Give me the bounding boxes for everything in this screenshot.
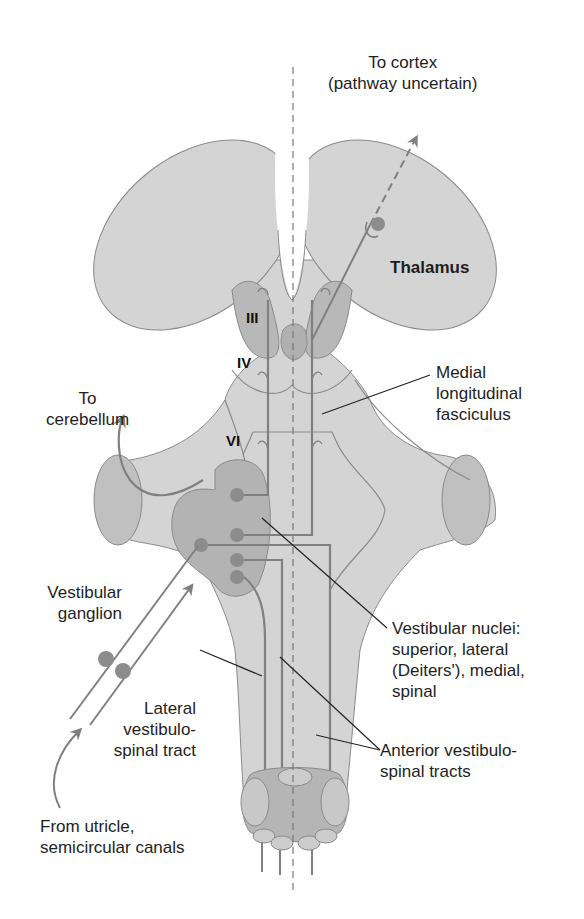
label-line: vestibulo-	[92, 719, 196, 740]
label-vestibular-ganglion: Vestibular ganglion	[32, 582, 122, 624]
label-line: spinal tract	[92, 740, 196, 761]
label-vestibular-nuclei: Vestibular nuclei: superior, lateral (De…	[392, 618, 525, 702]
label-to-cortex: To cortex (pathway uncertain)	[328, 52, 477, 94]
label-line: cerebellum	[46, 409, 129, 430]
label-line: Vestibular	[32, 582, 122, 603]
label-cn-iii: III	[246, 309, 259, 326]
label-line: Vestibular nuclei:	[392, 618, 525, 639]
label-line: To	[46, 388, 129, 409]
label-line: fasciculus	[436, 404, 522, 425]
label-line: From utricle,	[40, 816, 185, 837]
label-line: Anterior vestibulo-	[380, 740, 517, 761]
label-cn-vi: VI	[226, 432, 240, 449]
label-line: superior, lateral	[392, 639, 525, 660]
label-line: Medial	[436, 362, 522, 383]
edinger-westphal-nucleus	[281, 324, 307, 360]
label-line: semicircular canals	[40, 837, 185, 858]
label-line: ganglion	[32, 603, 122, 624]
label-thalamus: Thalamus	[390, 257, 469, 278]
label-medial-longitudinal-fasciculus: Medial longitudinal fasciculus	[436, 362, 522, 425]
label-line: To cortex	[328, 52, 477, 73]
label-line: (Deiters'), medial,	[392, 660, 525, 681]
label-to-cerebellum: To cerebellum	[46, 388, 129, 430]
label-cn-iv: IV	[237, 354, 251, 371]
label-line: Lateral	[92, 698, 196, 719]
left-peduncle	[94, 455, 142, 545]
spinal-cord-section	[241, 768, 349, 876]
label-line: longitudinal	[436, 383, 522, 404]
label-anterior-vestibulospinal-tracts: Anterior vestibulo- spinal tracts	[380, 740, 517, 782]
label-line: (pathway uncertain)	[328, 73, 477, 94]
label-lateral-vestibulospinal-tract: Lateral vestibulo- spinal tract	[92, 698, 196, 761]
label-from-utricle: From utricle, semicircular canals	[40, 816, 185, 858]
label-line: spinal tracts	[380, 761, 517, 782]
label-line: spinal	[392, 681, 525, 702]
